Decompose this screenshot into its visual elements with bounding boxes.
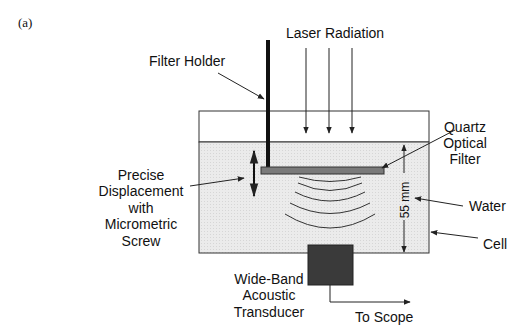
experimental-setup-diagram: (a) Laser Radiation Filter Holder Quartz… <box>0 0 519 332</box>
svg-text:Acoustic: Acoustic <box>243 287 296 303</box>
svg-text:Screw: Screw <box>122 233 162 249</box>
water-label: Water <box>469 198 506 214</box>
laser-radiation-label: Laser Radiation <box>286 25 384 41</box>
displacement-label: Precise Displacement with Micrometric Sc… <box>99 167 184 249</box>
svg-text:Optical: Optical <box>443 135 487 151</box>
to-scope-label: To Scope <box>355 309 414 325</box>
cell-pointer <box>431 232 478 238</box>
filter-holder-label: Filter Holder <box>149 53 226 69</box>
svg-text:Micrometric: Micrometric <box>105 216 177 232</box>
filter-holder-rod <box>266 40 270 168</box>
svg-text:with: with <box>128 200 154 216</box>
transducer-label: Wide-Band Acoustic Transducer <box>234 271 305 320</box>
cell-label: Cell <box>483 236 507 252</box>
distance-label: 55 mm <box>398 182 412 219</box>
svg-text:Precise: Precise <box>118 167 165 183</box>
panel-label: (a) <box>18 15 32 30</box>
cell-air-region <box>199 111 429 142</box>
quartz-filter-label: Quartz Optical Filter <box>443 119 487 167</box>
quartz-filter-plate <box>261 167 384 174</box>
svg-text:Displacement: Displacement <box>99 183 184 199</box>
to-scope-arrow <box>330 285 410 302</box>
svg-text:Filter: Filter <box>449 151 480 167</box>
wide-band-transducer <box>308 245 353 285</box>
svg-text:Wide-Band: Wide-Band <box>234 271 303 287</box>
water-region <box>199 142 429 253</box>
svg-text:Transducer: Transducer <box>234 304 305 320</box>
filter-holder-pointer <box>218 73 264 99</box>
